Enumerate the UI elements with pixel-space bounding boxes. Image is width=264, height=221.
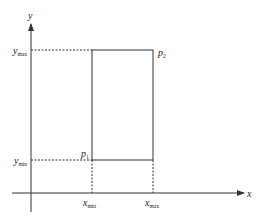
p1-label: p1 — [80, 148, 89, 160]
x-min-label: xmin — [82, 197, 96, 209]
y-min-label: ymin — [13, 155, 27, 167]
x-axis-label: x — [246, 188, 252, 199]
y-max-label: ymax — [12, 45, 27, 57]
bounding-rectangle — [92, 50, 153, 160]
x-max-label: xmax — [144, 197, 159, 209]
y-axis-label: y — [27, 10, 33, 21]
bounding-box-diagram: y x ymax ymin xmin xmax p1 p2 — [0, 0, 264, 221]
p2-label: p2 — [157, 47, 166, 59]
